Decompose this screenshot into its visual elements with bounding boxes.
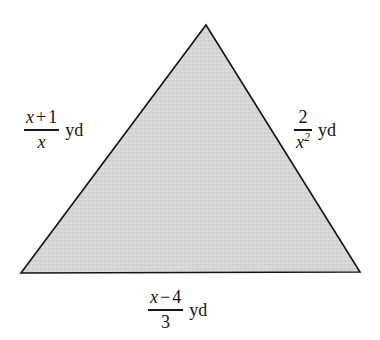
bottom-numerator-variable: x — [150, 287, 158, 307]
unit-label-right: yd — [318, 121, 336, 139]
fraction-bottom-numerator: x−4 — [148, 288, 183, 308]
fraction-left-denominator: x — [36, 132, 48, 152]
fraction-left-bar — [24, 129, 59, 131]
right-denominator-variable: x — [296, 132, 304, 152]
unit-label-left: yd — [65, 121, 83, 139]
fraction-right: 2 x2 — [294, 108, 312, 152]
bottom-numerator-constant: 4 — [172, 287, 181, 307]
fraction-bottom-bar — [148, 309, 183, 311]
right-denominator-exponent: 2 — [304, 130, 310, 144]
fraction-right-numerator: 2 — [296, 108, 309, 128]
fraction-left: x+1 x — [24, 108, 59, 152]
fraction-bottom-denominator: 3 — [159, 312, 172, 332]
left-numerator-constant: 1 — [48, 107, 57, 127]
unit-label-bottom: yd — [189, 301, 207, 319]
fraction-left-numerator: x+1 — [24, 108, 59, 128]
fraction-right-denominator: x2 — [294, 132, 312, 152]
fraction-bottom: x−4 3 — [148, 288, 183, 332]
side-label-left: x+1 x yd — [24, 108, 83, 152]
bottom-numerator-operator: − — [158, 287, 172, 307]
side-label-bottom: x−4 3 yd — [148, 288, 207, 332]
geometry-figure: x+1 x yd 2 x2 yd x−4 3 yd — [0, 0, 380, 340]
side-label-right: 2 x2 yd — [294, 108, 336, 152]
left-numerator-operator: + — [34, 107, 48, 127]
left-numerator-variable: x — [26, 107, 34, 127]
